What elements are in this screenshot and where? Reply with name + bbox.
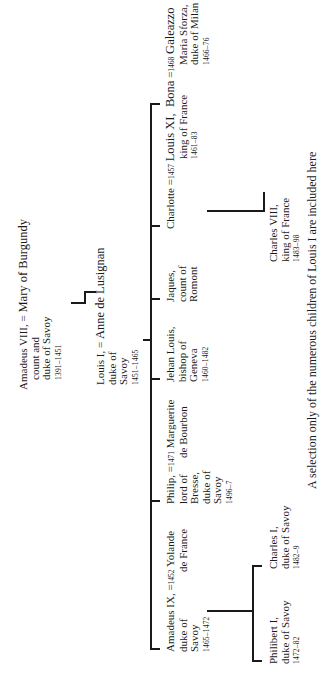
bona-name: Bona (163, 81, 177, 107)
connector-charlotte-children (207, 211, 264, 213)
louis-i-name: Louis I, (94, 351, 106, 385)
bona-node: Bona =1468 Galeazzo Maria Sforza, duke o… (165, 3, 212, 107)
louis-i-node: Louis I, = Anne de Lusignan duke of Savo… (95, 247, 141, 385)
drop-amadeus-ix (150, 649, 160, 651)
charles-i-name: Charles I, (268, 505, 280, 569)
galeazzo-name: Galeazzo (163, 7, 177, 54)
jaques-title-2: Romont (188, 266, 200, 302)
charlotte-node: Charlotte =1457 Louis XI, king of France… (165, 95, 201, 229)
marguerite-name: Marguerite (164, 400, 176, 449)
amadeus-viii-years: 1391–1451 (53, 219, 65, 390)
drop-jehan-louis (150, 379, 160, 381)
connector-amadeus-ix-children (207, 611, 252, 613)
charles-viii-years: 1483–98 (291, 198, 303, 262)
charles-viii-node: Charles VIII, king of France 1483–98 (268, 198, 303, 262)
marriage-year: 1452 (167, 569, 176, 584)
charles-i-years: 1482–9 (291, 505, 303, 569)
philip-node: Philip, =1471 Marguerite lord of de Bour… (165, 400, 235, 504)
drop-bona (150, 104, 160, 106)
amadeus-ix-years: 1465–1472 (201, 531, 213, 652)
marriage-sign: = (164, 584, 176, 590)
philibert-i-years: 1472–82 (291, 600, 303, 664)
connector-gen1-gen2 (71, 303, 85, 305)
jaques-name: Jaques, (165, 266, 177, 302)
grandchildren-bar-savoy (252, 566, 254, 662)
jehan-louis-years: 1460–1482 (200, 326, 212, 382)
jehan-louis-name: Jehan Louis, (165, 326, 177, 382)
philibert-i-name: Philibert I, (268, 600, 280, 664)
philip-years: 1496–7 (224, 400, 236, 504)
marriage-sign: = (94, 342, 106, 348)
genealogy-diagram: Amadeus VIII, = Mary of Burgundy count a… (0, 0, 326, 694)
philip-title-4: Savoy (212, 400, 224, 504)
jaques-node: Jaques, count of Romont (165, 266, 200, 302)
marriage-sign: = (164, 72, 176, 78)
amadeus-viii-name: Amadeus VIII, (17, 324, 29, 390)
galeazzo-years: 1466–76 (201, 3, 213, 107)
drop-philip (150, 501, 160, 503)
louis-xi-name: Louis XI, (163, 113, 177, 161)
charlotte-name: Charlotte (164, 188, 176, 229)
marriage-sign: = (17, 315, 29, 321)
louis-i-years: 1451–1465 (130, 247, 142, 385)
philip-title-1: lord of (177, 474, 189, 504)
marguerite-title: de Bourbon (178, 406, 190, 458)
children-bar (150, 104, 152, 650)
louis-xi-years: 1461–83 (189, 95, 201, 229)
jehan-louis-title-2: Geneva (188, 326, 200, 382)
marriage-year: 1471 (167, 451, 176, 466)
louis-xi-title: king of France (178, 95, 190, 229)
anne-de-lusignan-name: Anne de Lusignan (93, 247, 107, 339)
charles-viii-title: king of France (280, 198, 292, 262)
charles-i-node: Charles I, duke of Savoy 1482–9 (268, 505, 303, 569)
amadeus-ix-node: Amadeus IX, =1452 Yolande duke of de Fra… (165, 531, 212, 652)
philibert-i-title: duke of Savoy (280, 600, 292, 664)
grandchildren-bar-france (263, 192, 265, 212)
amadeus-viii-title-2: duke of Savoy (41, 219, 53, 390)
louis-i-title-2: Savoy (118, 247, 130, 385)
philip-title-2: Bresse, (189, 400, 201, 504)
drop-jaques (150, 299, 160, 301)
philip-name: Philip, (164, 475, 176, 504)
charles-viii-name: Charles VIII, (268, 198, 280, 262)
marriage-sign: = (164, 179, 176, 185)
connector-gen1-gen2-h (84, 292, 86, 304)
yolande-title: de France (178, 529, 190, 572)
drop-philibert (252, 661, 262, 663)
yolande-name: Yolande (164, 531, 176, 567)
drop-charlotte (150, 226, 160, 228)
charles-i-title: duke of Savoy (280, 505, 292, 569)
mary-of-burgundy-name: Mary of Burgundy (16, 219, 30, 313)
galeazzo-title-2: duke of Milan (189, 3, 201, 107)
marriage-sign: = (164, 466, 176, 472)
drop-charles-i (252, 566, 262, 568)
amadeus-ix-title-1: duke of (177, 619, 189, 652)
footnote: A selection only of the numerous childre… (305, 152, 320, 489)
amadeus-ix-name: Amadeus IX, (164, 593, 176, 652)
amadeus-ix-title-2: Savoy (189, 531, 201, 652)
philibert-i-node: Philibert I, duke of Savoy 1472–82 (268, 600, 303, 664)
amadeus-viii-node: Amadeus VIII, = Mary of Burgundy count a… (18, 219, 64, 390)
marriage-year: 1457 (167, 164, 176, 179)
marriage-year: 1468 (167, 57, 176, 72)
jehan-louis-node: Jehan Louis, bishop of Geneva 1460–1482 (165, 326, 211, 382)
